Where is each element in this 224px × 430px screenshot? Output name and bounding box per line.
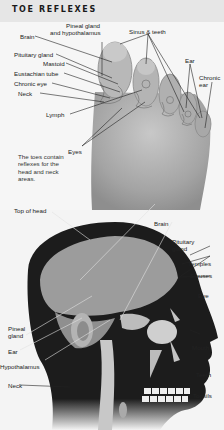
label-eyes: Eyes [68, 148, 82, 155]
label-pineal: Pineal [8, 325, 25, 332]
label-ear: Ear [185, 57, 195, 64]
label-top-of-head: Top of head [14, 207, 46, 214]
label-neck: Neck [8, 382, 22, 389]
label-chronic-eye: Chronic eye [14, 80, 47, 87]
label-hypothalamus: and hypothalamus [50, 29, 101, 36]
header-bar: TOE REFLEXES [0, 0, 224, 22]
head-illustration [0, 200, 224, 430]
label-brain: Brain [20, 33, 34, 40]
label-temples: Temples [188, 260, 211, 267]
label-ear: Ear [8, 348, 18, 355]
label-eye: Eye [198, 292, 209, 299]
label-lymph: Lymph [46, 111, 64, 118]
label-pituitary: Pituitary [172, 238, 194, 245]
label-sinuses: Sinuses [190, 272, 212, 279]
page-title: TOE REFLEXES [12, 5, 97, 14]
label-sinus-teeth: Sinus & teeth [129, 28, 166, 35]
label-mouth: Mouth [192, 344, 209, 351]
label-pituitary-gland: Pituitary gland [14, 51, 53, 58]
label-brain: Brain [154, 220, 168, 227]
toe-diagram: Pineal gland and hypothalamus Brain Pitu… [0, 22, 224, 210]
label-chronic-ear-line2: ear [199, 81, 208, 88]
label-eustachian-tube: Eustachian tube [14, 70, 58, 77]
label-mastoid: Mastoid [43, 60, 65, 67]
head-diagram: Top of head Brain Pituitary gland Temple… [0, 200, 224, 430]
label-tonsils: Tonsils [193, 392, 212, 399]
label-neck: Neck [18, 90, 32, 97]
label-pituitary-line2: gland [172, 245, 187, 252]
label-chronic-ear: Chronic [199, 74, 220, 81]
label-teeth: Teeth [196, 371, 211, 378]
label-pineal-gland: Pineal gland [66, 22, 100, 29]
toe-note: The toes contain reflexes for the head a… [18, 153, 66, 182]
label-hypothalamus: Hypothalamus [0, 363, 40, 370]
label-pineal-line2: gland [8, 332, 23, 339]
